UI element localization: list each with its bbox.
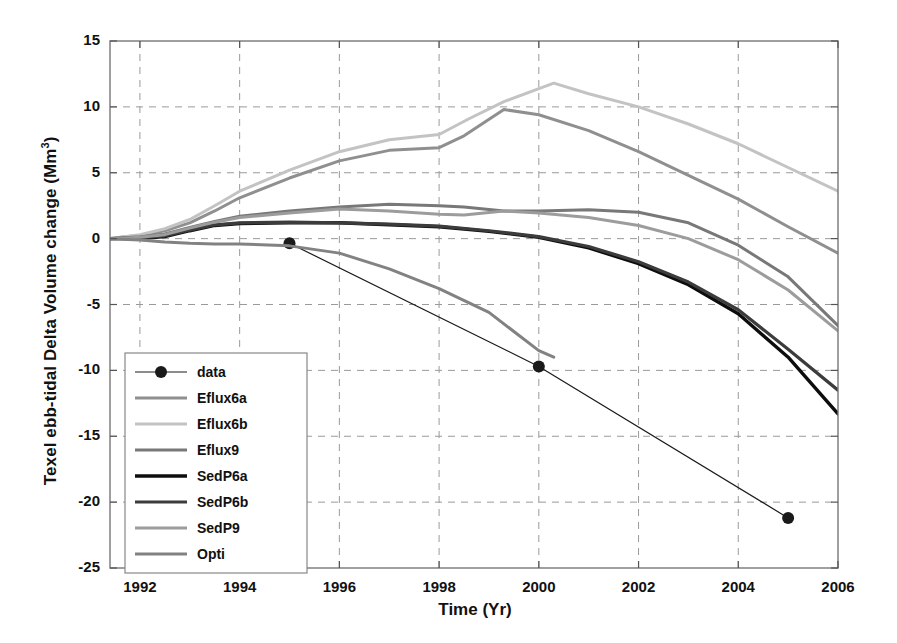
legend-label-sedp6a: SedP6a (197, 468, 248, 484)
y-tick-label: -15 (52, 426, 100, 443)
x-tick-label: 2000 (514, 578, 564, 595)
y-tick-label: 0 (52, 229, 100, 246)
y-axis-label-exponent: 3 (39, 142, 51, 148)
y-axis-label-tail: ) (41, 136, 60, 142)
data-point-marker (533, 360, 545, 372)
legend-label-sedp9: SedP9 (197, 520, 240, 536)
series-line-sedp9 (110, 209, 838, 331)
legend-label-eflux6b: Eflux6b (197, 416, 248, 432)
legend-marker-data (155, 366, 167, 378)
x-tick-label: 1998 (414, 578, 464, 595)
x-tick-label: 1992 (115, 578, 165, 595)
legend-label-eflux6a: Eflux6a (197, 390, 247, 406)
figure-container: dataEflux6aEflux6bEflux9SedP6aSedP6bSedP… (0, 0, 897, 643)
y-tick-label: 5 (52, 163, 100, 180)
x-axis-label: Time (Yr) (110, 600, 840, 620)
y-tick-label: 10 (52, 97, 100, 114)
chart-canvas: dataEflux6aEflux6bEflux9SedP6aSedP6bSedP… (0, 0, 897, 643)
data-point-marker (782, 512, 794, 524)
legend-label-sedp6b: SedP6b (197, 494, 248, 510)
x-tick-label: 1994 (215, 578, 265, 595)
y-tick-label: -10 (52, 360, 100, 377)
legend-box (125, 353, 307, 573)
series-line-opti (110, 239, 554, 358)
legend: dataEflux6aEflux6bEflux9SedP6aSedP6bSedP… (125, 353, 307, 573)
legend-label-opti: Opti (197, 546, 225, 562)
legend-label-data: data (197, 364, 226, 380)
y-tick-label: -20 (52, 492, 100, 509)
legend-label-eflux9: Eflux9 (197, 442, 239, 458)
x-tick-label: 2004 (713, 578, 763, 595)
y-tick-label: 15 (52, 31, 100, 48)
y-tick-label: -5 (52, 295, 100, 312)
y-tick-label: -25 (52, 558, 100, 575)
x-tick-label: 2006 (813, 578, 863, 595)
x-tick-label: 1996 (314, 578, 364, 595)
x-tick-label: 2002 (614, 578, 664, 595)
